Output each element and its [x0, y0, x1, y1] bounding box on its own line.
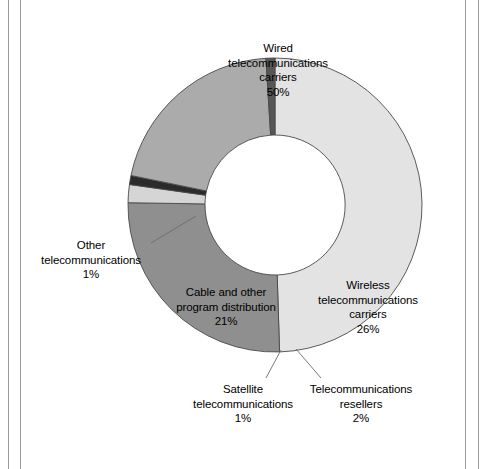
slice-label-cable: Cable and other program distribution 21%	[152, 285, 300, 329]
slice-label-satellite-line2: telecommunications	[193, 398, 293, 410]
slice-value-resellers: 2%	[288, 411, 434, 426]
slice-label-other-line1: Other	[77, 239, 105, 251]
slice-label-wireless-line3: carriers	[349, 308, 387, 320]
slice-label-wireless-line1: Wireless	[346, 279, 389, 291]
slice-label-resellers-line1: Telecommunications	[310, 383, 412, 395]
slice-label-resellers-line2: resellers	[340, 398, 383, 410]
slice-label-wired: Wired telecommunications carriers 50%	[204, 41, 352, 99]
donut-slice-wireless[interactable]	[128, 203, 280, 352]
slice-value-wired: 50%	[204, 85, 352, 100]
slice-label-satellite-line1: Satellite	[223, 383, 263, 395]
slice-value-wireless: 26%	[302, 322, 434, 337]
leader-line-satellite	[266, 350, 281, 378]
slice-label-wired-line1: Wired	[263, 42, 293, 54]
slice-label-wired-line2: telecommunications	[228, 57, 328, 69]
slice-label-cable-line1: Cable and other	[186, 286, 266, 298]
slice-label-other: Other telecommunications 1%	[32, 238, 150, 282]
slice-label-wireless: Wireless telecommunications carriers 26%	[302, 278, 434, 336]
slice-label-resellers: Telecommunications resellers 2%	[288, 382, 434, 426]
slice-label-other-line2: telecommunications	[41, 254, 141, 266]
donut-chart: Wired telecommunications carriers 50% Wi…	[0, 0, 487, 469]
slice-label-wireless-line2: telecommunications	[318, 294, 418, 306]
leader-line-resellers	[296, 349, 321, 378]
slice-label-cable-line2: program distribution	[176, 301, 276, 313]
slice-label-wired-line3: carriers	[259, 71, 297, 83]
slice-value-other: 1%	[32, 267, 150, 282]
slice-value-cable: 21%	[152, 314, 300, 329]
